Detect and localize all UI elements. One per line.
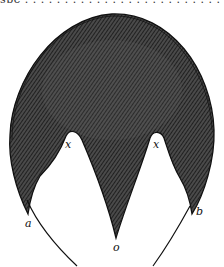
label-left-x: x — [65, 139, 71, 150]
label-b: b — [196, 206, 203, 217]
label-o: o — [113, 242, 120, 253]
label-right-x: x — [153, 139, 159, 150]
left-line — [27, 200, 77, 266]
hatched-diagram — [0, 0, 224, 267]
label-a: a — [25, 218, 32, 229]
right-line — [153, 206, 190, 266]
